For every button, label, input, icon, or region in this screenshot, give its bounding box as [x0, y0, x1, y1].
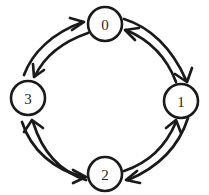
- edge-path-3-to-2: [22, 122, 84, 177]
- node-1[interactable]: 1: [164, 84, 198, 118]
- diagram-canvas: 0 1 2 3: [0, 0, 209, 195]
- edge-3-0: [24, 18, 88, 77]
- node-3[interactable]: 3: [11, 81, 45, 115]
- node-label-2: 2: [101, 167, 109, 183]
- edge-1-2: [124, 118, 188, 183]
- node-0[interactable]: 0: [88, 7, 122, 41]
- edge-0-1: [124, 19, 192, 82]
- node-2[interactable]: 2: [88, 157, 122, 191]
- edge-2-3: [22, 120, 86, 183]
- node-label-0: 0: [101, 17, 109, 33]
- node-label-1: 1: [177, 94, 185, 110]
- edge-path-2-to-1: [124, 122, 176, 171]
- node-label-3: 3: [24, 91, 32, 107]
- cycle-diagram: 0 1 2 3: [0, 0, 209, 195]
